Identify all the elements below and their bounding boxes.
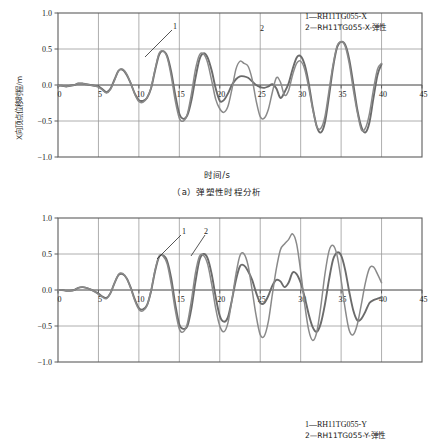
svg-text:40: 40 (379, 90, 387, 99)
chart-a-legend-item-2: 2—RH11TG055-X-弹性 (305, 23, 386, 34)
chart-a-legend: 1—RH11TG055-X 2—RH11TG055-X-弹性 (305, 12, 386, 33)
svg-text:0: 0 (58, 295, 62, 304)
figure-b: −1.0−0.50.00.51.0051015202530354045 1 2 … (0, 204, 434, 441)
svg-text:5: 5 (98, 90, 102, 99)
callout-label-2: 2 (260, 24, 264, 33)
svg-text:20: 20 (217, 295, 225, 304)
chart-b-svg: −1.0−0.50.00.51.0051015202530354045 (0, 204, 434, 379)
chart-a-figure-caption: （a）弹塑性时程分析 (0, 185, 434, 197)
svg-text:15: 15 (177, 90, 185, 99)
svg-text:0.0: 0.0 (42, 286, 52, 295)
svg-text:−1.0: −1.0 (37, 153, 52, 162)
figure-a: −1.0−0.50.00.51.0051015202530354045 1 2 … (0, 0, 434, 200)
chart-a-caption-block: 时间/s （a）弹塑性时程分析 (0, 168, 434, 197)
svg-text:1.0: 1.0 (42, 9, 52, 18)
chart-b-plot-area: −1.0−0.50.00.51.0051015202530354045 1 2 (0, 204, 434, 379)
svg-text:−1.0: −1.0 (37, 358, 52, 367)
svg-text:0.0: 0.0 (42, 81, 52, 90)
svg-text:0.5: 0.5 (42, 250, 52, 259)
svg-text:25: 25 (258, 90, 266, 99)
svg-text:0.5: 0.5 (42, 45, 52, 54)
callout-label-1: 1 (173, 22, 177, 31)
svg-text:30: 30 (298, 90, 306, 99)
svg-text:1.0: 1.0 (42, 214, 52, 223)
chart-b-legend-item-1: 1—RH11TG055-Y (305, 420, 385, 431)
callout-label-2: 2 (204, 227, 208, 236)
svg-text:15: 15 (177, 295, 185, 304)
svg-text:−0.5: −0.5 (37, 322, 52, 331)
svg-text:45: 45 (420, 295, 428, 304)
chart-b-legend: 1—RH11TG055-Y 2—RH11TG055-Y-弹性 (305, 420, 385, 441)
svg-text:10: 10 (136, 295, 144, 304)
svg-text:40: 40 (379, 295, 387, 304)
svg-text:0: 0 (58, 90, 62, 99)
chart-a-y-axis-label: X向顶点位移时程/m (13, 76, 24, 140)
svg-text:45: 45 (420, 90, 428, 99)
svg-text:−0.5: −0.5 (37, 117, 52, 126)
svg-text:35: 35 (339, 90, 347, 99)
chart-b-legend-item-2: 2—RH11TG055-Y-弹性 (305, 431, 385, 441)
chart-a-x-axis-label: 时间/s (0, 168, 434, 180)
chart-a-legend-item-1: 1—RH11TG055-X (305, 12, 386, 23)
callout-label-1: 1 (182, 227, 186, 236)
